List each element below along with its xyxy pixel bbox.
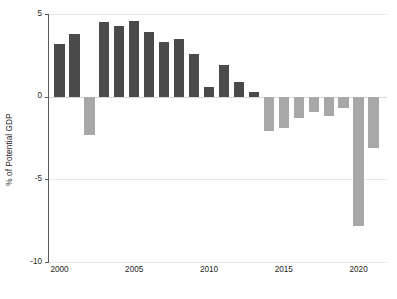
bar-2016: [294, 97, 304, 119]
gridline-y--10: [49, 262, 387, 263]
bar-2010: [204, 87, 214, 97]
bar-2014: [264, 97, 274, 132]
bar-2002: [84, 97, 94, 135]
bar-2004: [114, 26, 124, 97]
bar-2017: [309, 97, 319, 112]
y-tick-mark--10: [45, 262, 49, 263]
gridline-y--5: [49, 179, 387, 180]
y-tick-label--10: -10: [30, 258, 42, 266]
bar-2009: [189, 54, 199, 97]
bar-2021: [368, 97, 378, 148]
bar-2011: [219, 65, 229, 96]
y-tick-mark-5: [45, 14, 49, 15]
zero-baseline: [49, 97, 387, 98]
bar-2008: [174, 39, 184, 97]
x-tick-label-2010: 2010: [189, 266, 229, 274]
x-tick-label-2020: 2020: [339, 266, 379, 274]
bar-2007: [159, 42, 169, 97]
bar-2012: [234, 82, 244, 97]
x-tick-label-2015: 2015: [264, 266, 304, 274]
plot-area: [49, 14, 387, 262]
gridline-y-5: [49, 14, 387, 15]
y-axis-title: % of Potential GDP: [0, 0, 18, 299]
y-tick-label--5: -5: [35, 175, 42, 183]
bar-2018: [324, 97, 334, 117]
bar-2020: [353, 97, 363, 226]
x-tick-label-2005: 2005: [114, 266, 154, 274]
bar-2005: [129, 21, 139, 97]
y-tick-mark-0: [45, 97, 49, 98]
bar-2003: [99, 22, 109, 96]
bar-2001: [69, 34, 79, 97]
bar-2000: [54, 44, 64, 97]
chart-container: % of Potential GDP 50-5-10 2000200520102…: [0, 0, 397, 299]
bar-2006: [144, 32, 154, 97]
bar-2015: [279, 97, 289, 128]
bar-2019: [338, 97, 348, 109]
y-tick-label-5: 5: [37, 10, 42, 18]
y-tick-mark--5: [45, 179, 49, 180]
bar-2013: [249, 92, 259, 97]
y-tick-label-0: 0: [37, 92, 42, 100]
x-tick-label-2000: 2000: [40, 266, 80, 274]
